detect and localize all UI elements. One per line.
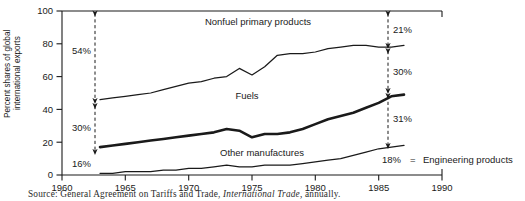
y-tick-label-0: 0 <box>48 169 53 180</box>
y-tick-label-80: 80 <box>42 38 53 49</box>
annotation-other-left: 16% <box>72 158 92 169</box>
left-annotations: 54% 30% 16% <box>72 14 95 170</box>
y-axis-ticks: 0 20 40 60 80 100 <box>37 5 62 180</box>
source-caption: Source: General Agreement on Tariffs and… <box>28 189 518 199</box>
source-body: General Agreement on Tariffs and Trade, <box>60 189 220 199</box>
series-line-fuels-boundary <box>100 95 404 147</box>
line-chart: Percent shares of global international e… <box>0 0 525 201</box>
annotation-fuels-left: 30% <box>72 122 92 133</box>
series-label-nonfuel: Nonfuel primary products <box>205 16 311 27</box>
annotation-nonfuel-right: 21% <box>393 24 413 35</box>
y-axis-title: Percent shares of global international e… <box>3 30 22 118</box>
right-annotations: 21% 30% 31% <box>388 14 413 147</box>
annotation-other-right: 31% <box>393 113 413 124</box>
y-tick-label-40: 40 <box>42 104 53 115</box>
legend: 18% = Engineering products <box>382 154 513 165</box>
annotation-nonfuel-left: 54% <box>72 45 92 56</box>
y-tick-label-20: 20 <box>42 137 53 148</box>
source-suffix: annually. <box>305 189 341 199</box>
legend-value: 18% <box>382 154 402 165</box>
source-prefix: Source: <box>28 189 58 199</box>
source-italic-title: International Trade, <box>223 189 302 199</box>
series-label-fuels: Fuels <box>235 90 258 101</box>
series-label-other-manufactures: Other manufactures <box>220 147 304 158</box>
legend-equals-sign: = <box>410 154 416 165</box>
legend-label-engineering: Engineering products <box>423 154 513 165</box>
annotation-fuels-right: 30% <box>393 66 413 77</box>
y-tick-label-60: 60 <box>42 71 53 82</box>
y-axis-title-line2: international exports <box>13 36 22 110</box>
y-axis-title-line1: Percent shares of global <box>3 30 12 118</box>
figure-container: Percent shares of global international e… <box>0 0 525 201</box>
chart-canvas: Percent shares of global international e… <box>0 0 525 201</box>
y-tick-label-100: 100 <box>37 5 53 16</box>
